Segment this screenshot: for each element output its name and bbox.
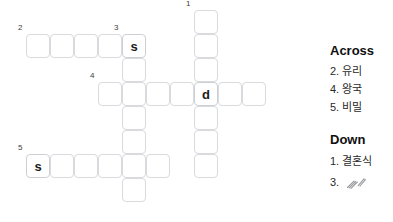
grid-cell[interactable] (242, 82, 266, 106)
grid-cell[interactable] (194, 58, 218, 82)
grid-cell[interactable] (194, 34, 218, 58)
clue-number-5: 5 (18, 144, 22, 152)
grid-cell[interactable] (170, 82, 194, 106)
grid-cell[interactable] (122, 178, 146, 202)
grid-cell[interactable] (98, 34, 122, 58)
down-clue-number: 1. (330, 155, 339, 167)
across-clue-item[interactable]: 5. 비밀 (330, 102, 362, 113)
grid-cell[interactable]: d (194, 82, 218, 106)
grid-cell[interactable] (74, 154, 98, 178)
across-clue-text: 왕국 (342, 83, 362, 95)
crossword-puzzle: 123s4d5s Across 2. 유리 4. 왕국 5. 비밀 Down 1… (0, 0, 393, 222)
grid-cell[interactable] (122, 58, 146, 82)
grid-cell[interactable] (98, 154, 122, 178)
grid-cell[interactable] (218, 82, 242, 106)
grid-cell[interactable] (194, 106, 218, 130)
grid-cell[interactable] (194, 130, 218, 154)
grid-cell[interactable] (146, 154, 170, 178)
clue-number-3: 3 (114, 24, 118, 32)
grid-cell[interactable] (122, 130, 146, 154)
across-heading: Across (330, 44, 374, 57)
crossword-grid: 123s4d5s (0, 0, 290, 222)
clue-number-4: 4 (90, 72, 94, 80)
across-clue-item[interactable]: 4. 왕국 (330, 84, 362, 95)
grid-cell[interactable] (26, 34, 50, 58)
clue-number-1: 1 (186, 0, 190, 8)
grid-cell[interactable] (194, 10, 218, 34)
down-clue-item[interactable]: 1. 결혼식 (330, 156, 372, 167)
down-clue-text: 결혼식 (342, 155, 372, 167)
grid-cell[interactable] (194, 154, 218, 178)
grid-cell[interactable] (50, 154, 74, 178)
grid-cell[interactable]: s (122, 34, 146, 58)
across-clue-text: 유리 (342, 65, 362, 77)
down-clue-number: 3. (330, 176, 339, 188)
across-clue-number: 4. (330, 83, 339, 95)
across-clue-item[interactable]: 2. 유리 (330, 66, 362, 77)
grid-cell[interactable] (122, 154, 146, 178)
grid-cell[interactable]: s (26, 154, 50, 178)
grid-cell[interactable] (50, 34, 74, 58)
down-clue-item[interactable]: 3. (330, 177, 367, 190)
grid-cell[interactable] (122, 106, 146, 130)
clue-number-2: 2 (18, 24, 22, 32)
grid-cell[interactable] (74, 34, 98, 58)
across-clue-number: 2. (330, 65, 339, 77)
grid-cell[interactable] (122, 82, 146, 106)
across-clue-text: 비밀 (342, 101, 362, 113)
grid-cell[interactable] (98, 82, 122, 106)
across-clue-number: 5. (330, 101, 339, 113)
unrendered-glyph-icon (345, 177, 367, 190)
grid-cell[interactable] (146, 82, 170, 106)
clue-panel: Across 2. 유리 4. 왕국 5. 비밀 Down 1. 결혼식 3. (330, 0, 393, 222)
down-heading: Down (330, 133, 365, 146)
